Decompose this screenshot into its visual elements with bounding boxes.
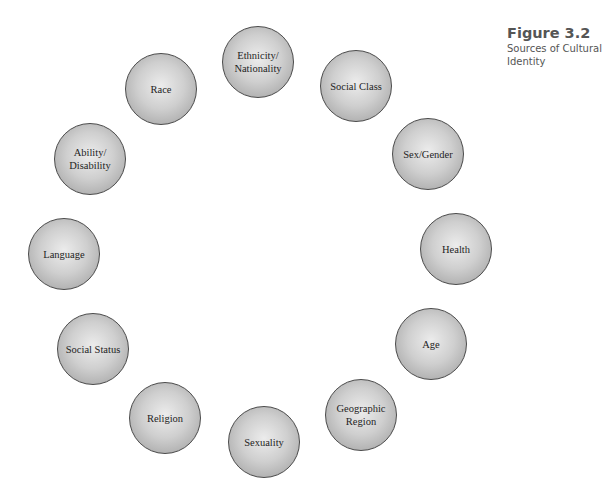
node-label: Geographic Region bbox=[337, 402, 386, 428]
node-label: Sexuality bbox=[244, 436, 284, 449]
node-label: Social Status bbox=[66, 343, 121, 356]
node-ethnicity-nationality: Ethnicity/ Nationality bbox=[222, 26, 294, 98]
node-race: Race bbox=[125, 53, 197, 125]
node-label: Language bbox=[43, 248, 84, 261]
node-label: Social Class bbox=[330, 80, 382, 93]
node-social-class: Social Class bbox=[320, 50, 392, 122]
node-sexuality: Sexuality bbox=[228, 406, 300, 478]
node-sex-gender: Sex/Gender bbox=[392, 118, 464, 190]
node-religion: Religion bbox=[129, 382, 201, 454]
node-label: Religion bbox=[147, 412, 183, 425]
node-label: Ability/ Disability bbox=[69, 146, 110, 172]
node-label: Health bbox=[442, 243, 470, 256]
node-social-status: Social Status bbox=[57, 313, 129, 385]
node-label: Race bbox=[151, 83, 172, 96]
node-label: Age bbox=[422, 338, 440, 351]
figure-number: Figure 3.2 bbox=[507, 25, 602, 42]
node-label: Sex/Gender bbox=[403, 148, 453, 161]
node-geographic-region: Geographic Region bbox=[325, 379, 397, 451]
node-label: Ethnicity/ Nationality bbox=[234, 49, 281, 75]
node-age: Age bbox=[395, 308, 467, 380]
node-ability-disability: Ability/ Disability bbox=[54, 123, 126, 195]
node-language: Language bbox=[28, 218, 100, 290]
node-health: Health bbox=[420, 213, 492, 285]
figure-title: Sources of Cultural Identity bbox=[507, 43, 602, 68]
figure-caption: Figure 3.2 Sources of Cultural Identity bbox=[507, 25, 602, 68]
